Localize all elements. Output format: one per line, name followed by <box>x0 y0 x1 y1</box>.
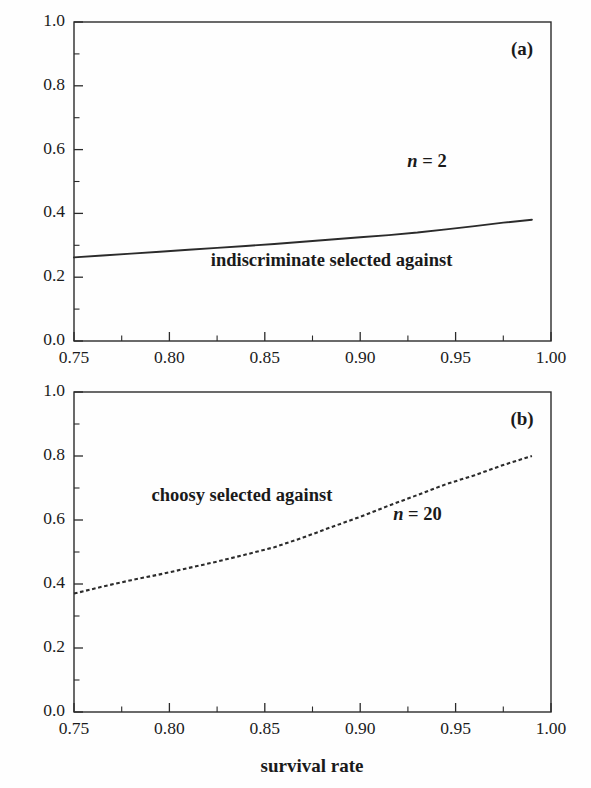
panel-b-x-ticks <box>74 703 551 712</box>
panel-a-plot: 0.00.20.40.60.81.0 0.750.800.850.900.951… <box>0 0 591 394</box>
panel-a-x-ticklabels: 0.750.800.850.900.951.00 <box>59 347 567 367</box>
y-tick-label: 0.8 <box>43 444 65 464</box>
panel-b-y-ticks <box>74 392 83 712</box>
panel-a-annotations: n = 2indiscriminate selected against <box>211 151 453 270</box>
x-tick-label: 0.75 <box>59 347 90 367</box>
panel-b: 0.00.20.40.60.81.0 0.750.800.850.900.951… <box>0 370 591 788</box>
x-tick-label: 0.90 <box>345 718 376 738</box>
panel-a-tag: (a) <box>511 38 533 60</box>
y-tick-label: 1.0 <box>43 10 65 30</box>
y-tick-label: 0.2 <box>43 636 65 656</box>
y-tick-label: 0.8 <box>43 74 65 94</box>
y-tick-label: 0.4 <box>43 572 65 592</box>
x-tick-label: 0.80 <box>154 718 185 738</box>
panel-b-frame <box>74 392 551 712</box>
x-tick-label: 1.00 <box>536 347 567 367</box>
x-tick-label: 0.85 <box>249 718 280 738</box>
panel-b-annotations: n = 20choosy selected against <box>151 485 441 524</box>
series-line <box>74 456 532 594</box>
sample-size-label: n = 20 <box>393 504 442 524</box>
y-tick-label: 1.0 <box>43 380 65 400</box>
panel-a-y-ticks <box>74 22 83 341</box>
x-tick-label: 1.00 <box>536 718 567 738</box>
y-tick-label: 0.2 <box>43 265 65 285</box>
panel-b-y-ticklabels: 0.00.20.40.60.81.0 <box>43 380 65 720</box>
x-axis-title: survival rate <box>261 755 364 776</box>
x-tick-label: 0.80 <box>154 347 185 367</box>
x-tick-label: 0.95 <box>440 718 471 738</box>
figure-root: 0.00.20.40.60.81.0 0.750.800.850.900.951… <box>0 0 591 788</box>
panel-b-plot: 0.00.20.40.60.81.0 0.750.800.850.900.951… <box>0 370 591 788</box>
panel-a-frame <box>74 22 551 341</box>
x-tick-label: 0.75 <box>59 718 90 738</box>
panel-b-tag: (b) <box>510 408 533 430</box>
panel-b-axes: 0.00.20.40.60.81.0 0.750.800.850.900.951… <box>43 380 566 738</box>
region-annotation: indiscriminate selected against <box>211 250 453 270</box>
panel-a-y-ticklabels: 0.00.20.40.60.81.0 <box>43 10 65 349</box>
sample-size-label: n = 2 <box>407 151 446 171</box>
x-tick-label: 0.90 <box>345 347 376 367</box>
y-tick-label: 0.6 <box>43 508 65 528</box>
x-tick-label: 0.95 <box>440 347 471 367</box>
panel-b-x-ticklabels: 0.750.800.850.900.951.00 <box>59 718 567 738</box>
region-annotation: choosy selected against <box>151 485 333 505</box>
panel-a-x-ticks <box>74 332 551 341</box>
y-tick-label: 0.4 <box>43 201 65 221</box>
panel-b-series <box>74 456 532 594</box>
x-tick-label: 0.85 <box>249 347 280 367</box>
panel-a-axes: 0.00.20.40.60.81.0 0.750.800.850.900.951… <box>43 10 566 367</box>
y-tick-label: 0.6 <box>43 138 65 158</box>
panel-a: 0.00.20.40.60.81.0 0.750.800.850.900.951… <box>0 0 591 394</box>
